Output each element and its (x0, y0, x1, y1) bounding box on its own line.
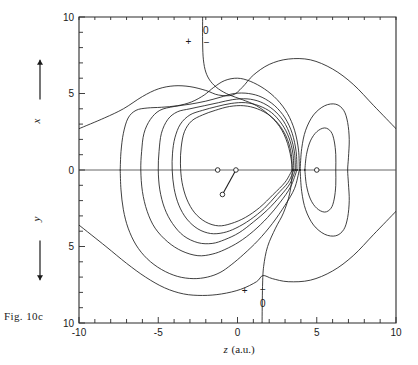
y-tick-label: 10 (63, 318, 75, 329)
bottom-plus: + (242, 285, 248, 296)
atom-right-axis (314, 168, 319, 173)
molecular-geometry-group (215, 168, 319, 197)
bottom-minus: − (260, 284, 266, 295)
y-tick-label: 10 (63, 12, 75, 23)
axis-labels-group: -10-505101050510z(a.u.)xy (30, 12, 402, 356)
x-tick-label: 5 (314, 327, 320, 338)
x-direction-arrow (37, 60, 43, 100)
x-axis-title-units: (a.u.) (232, 343, 256, 356)
top-minus: − (204, 37, 210, 48)
x-axis-title-symbol: z (223, 343, 229, 355)
y-tick-label: 5 (68, 88, 74, 99)
contour-plot: -10-505101050510z(a.u.)xy 0+−+−0 (0, 0, 418, 365)
atom-lower-bonded (220, 192, 225, 197)
y-direction-arrow (37, 240, 43, 280)
y-axis-lower-symbol: y (30, 216, 42, 222)
x-tick-label: -10 (72, 327, 87, 338)
figure-root: Fig. 10c -10-505101050510z(a.u.)xy 0+−+−… (0, 0, 418, 365)
contour-line (79, 59, 396, 129)
y-axis-upper-symbol: x (30, 118, 42, 124)
bottom-nodal-zero: 0 (260, 298, 266, 309)
y-tick-label: 5 (68, 241, 74, 252)
x-tick-label: 0 (235, 327, 241, 338)
atom-left-axis (215, 168, 220, 173)
top-plus: + (185, 36, 191, 47)
y-tick-label: 0 (68, 165, 74, 176)
x-tick-label: 10 (390, 327, 402, 338)
x-tick-label: -5 (154, 327, 163, 338)
atom-center (234, 168, 239, 173)
sign-annotations-group: 0+−+−0 (185, 25, 266, 309)
bond-line (222, 170, 235, 194)
top-nodal-zero: 0 (203, 25, 209, 36)
